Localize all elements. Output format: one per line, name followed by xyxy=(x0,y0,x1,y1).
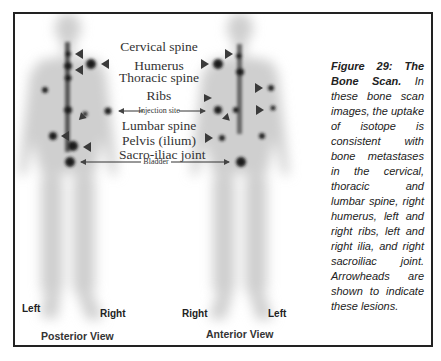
label-injection-site: Injection site xyxy=(131,106,187,115)
posterior-view-title: Posterior View xyxy=(41,330,114,342)
posterior-left-label: Left xyxy=(22,303,40,314)
anterior-view-title: Anterior View xyxy=(206,328,274,340)
label-lumbar-spine: Lumbar spine xyxy=(119,118,199,134)
caption-body: In these bone scan images, the uptake of… xyxy=(331,75,424,312)
figure-caption: Figure 29: The Bone Scan. In these bone … xyxy=(331,59,424,314)
posterior-right-label: Right xyxy=(100,308,126,319)
anterior-left-label: Left xyxy=(268,308,286,319)
label-thoracic-spine: Thoracic spine xyxy=(119,70,199,86)
label-bladder: Bladder xyxy=(141,157,171,166)
figure-frame: Cervical spine Humerus Thoracic spine Ri… xyxy=(13,12,433,347)
figure-number: Figure 29: xyxy=(331,60,392,72)
label-cervical-spine: Cervical spine xyxy=(119,39,199,55)
anterior-right-label: Right xyxy=(182,308,208,319)
label-ribs: Ribs xyxy=(119,88,199,104)
